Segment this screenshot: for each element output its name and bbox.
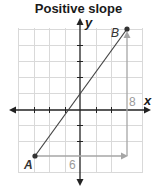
point-b-label: B	[111, 26, 119, 40]
rise-label: 8	[129, 95, 136, 109]
point-b-marker	[124, 26, 129, 31]
y-axis-arrow-down-icon	[77, 179, 84, 186]
point-a-marker	[32, 153, 37, 158]
point-a-label: A	[24, 158, 33, 172]
run-label: 6	[69, 158, 76, 172]
x-axis-label: x	[144, 93, 151, 108]
positive-slope-line	[35, 29, 127, 156]
y-axis-label: y	[85, 15, 92, 30]
y-axis-arrow-up-icon	[77, 18, 84, 25]
x-axis-arrow-left-icon	[9, 107, 16, 114]
